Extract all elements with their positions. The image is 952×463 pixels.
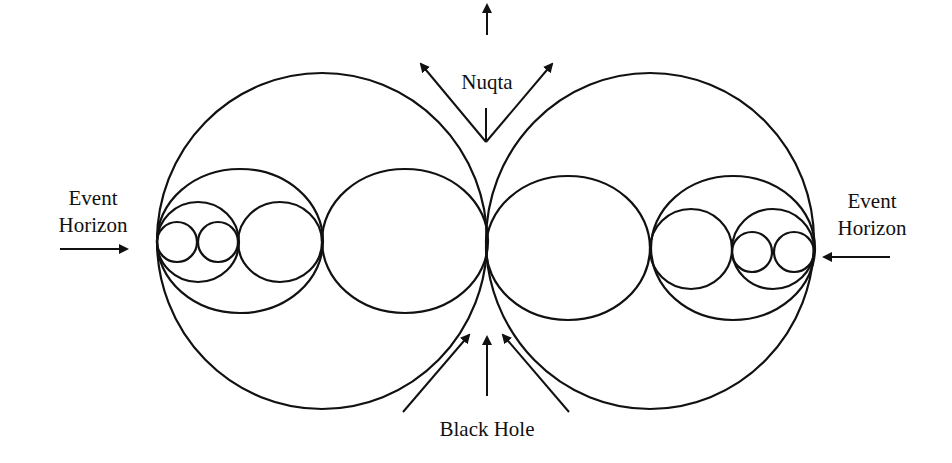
left-tiny-circle-1 — [157, 222, 197, 262]
event-horizon-left-label-line1: Event — [53, 186, 133, 211]
black-hole-right-arrow — [503, 335, 569, 412]
black-hole-left-arrow — [403, 335, 469, 412]
right-medium-circle — [650, 209, 732, 289]
right-tiny-circle-1 — [732, 232, 772, 272]
left-medium-circle — [238, 202, 322, 282]
nuqta-label: Nuqta — [452, 70, 522, 95]
left-tiny-circle-2 — [198, 222, 238, 262]
event-horizon-right-label-line1: Event — [832, 189, 912, 214]
right-inner-large-ellipse — [486, 176, 650, 320]
right-tiny-circle-2 — [774, 232, 814, 272]
left-inner-large-ellipse — [322, 169, 488, 313]
right-small-group-circle — [732, 209, 814, 289]
black-hole-label: Black Hole — [427, 417, 547, 442]
event-horizon-right-label-line2: Horizon — [832, 216, 912, 241]
event-horizon-left-label-line2: Horizon — [53, 213, 133, 238]
